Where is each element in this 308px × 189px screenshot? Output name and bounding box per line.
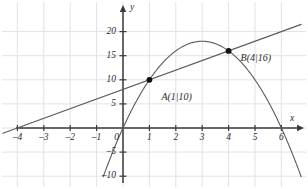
x-tick-label-0: 0 bbox=[114, 133, 119, 143]
grid-layer bbox=[2, 2, 306, 187]
x-axis-arrowhead bbox=[297, 125, 304, 131]
y-tick-label-15: 15 bbox=[107, 51, 117, 61]
y-tick-label-20: 20 bbox=[107, 27, 117, 37]
x-tick-label-1: 1 bbox=[147, 133, 152, 143]
x-tick-label-6: 6 bbox=[279, 133, 284, 143]
x-tick-label--3: –3 bbox=[39, 133, 49, 143]
x-axis-label: x bbox=[290, 114, 294, 124]
data-point-a bbox=[147, 77, 153, 83]
x-tick-label-2: 2 bbox=[173, 133, 178, 143]
y-tick-label--5: –5 bbox=[107, 147, 117, 157]
graph-figure: –4–3–2–10123456–10–55101520xyA(1|10)B(4|… bbox=[0, 0, 308, 189]
y-axis-label: y bbox=[130, 3, 134, 13]
y-tick-label--10: –10 bbox=[102, 171, 116, 181]
x-tick-label--2: –2 bbox=[65, 133, 75, 143]
x-tick-label-3: 3 bbox=[200, 133, 205, 143]
point-label-a: A(1|10) bbox=[161, 92, 192, 102]
y-axis-arrowhead bbox=[120, 5, 126, 12]
point-label-b: B(4|16) bbox=[241, 53, 272, 63]
x-tick-label--1: –1 bbox=[92, 133, 102, 143]
x-tick-label-5: 5 bbox=[253, 133, 258, 143]
curves-layer bbox=[3, 24, 301, 176]
y-tick-label-10: 10 bbox=[107, 75, 117, 85]
data-point-b bbox=[226, 48, 232, 54]
x-tick-label--4: –4 bbox=[13, 133, 23, 143]
plot-canvas bbox=[0, 0, 308, 189]
y-tick-label-5: 5 bbox=[111, 99, 116, 109]
x-tick-label-4: 4 bbox=[226, 133, 231, 143]
